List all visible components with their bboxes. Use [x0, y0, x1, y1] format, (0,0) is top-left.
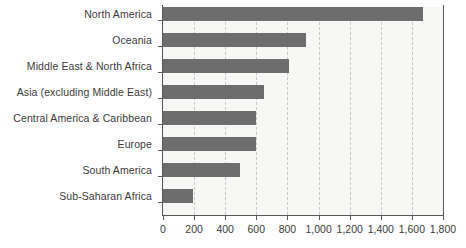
bar-oceania — [163, 33, 306, 47]
x-tick-600 — [256, 216, 257, 220]
plot-area — [163, 7, 443, 215]
category-label-asia-excluding-middle-east: Asia (excluding Middle East) — [17, 85, 152, 99]
y-axis-line — [162, 5, 163, 216]
category-axis: North America Oceania Middle East & Nort… — [0, 7, 158, 215]
x-axis-line — [162, 215, 444, 216]
bar-central-america-caribbean — [163, 111, 256, 125]
gridline-1200 — [350, 7, 351, 215]
y-tick-central-america-caribbean — [158, 124, 162, 125]
x-axis-label-600: 600 — [248, 223, 266, 235]
x-tick-800 — [287, 216, 288, 220]
x-tick-1600 — [412, 216, 413, 220]
category-label-middle-east-north-africa: Middle East & North Africa — [27, 59, 152, 73]
x-tick-1200 — [350, 216, 351, 220]
gridline-1000 — [319, 7, 320, 215]
bar-europe — [163, 137, 256, 151]
x-tick-1000 — [319, 216, 320, 220]
category-label-oceania: Oceania — [112, 33, 152, 47]
plot-right-border — [443, 5, 444, 216]
gridline-1600 — [412, 7, 413, 215]
bar-south-america — [163, 163, 240, 177]
x-axis-label-1800: 1,800 — [430, 223, 456, 235]
x-axis-label-800: 800 — [279, 223, 297, 235]
bar-asia-excluding-middle-east — [163, 85, 264, 99]
category-label-north-america: North America — [84, 7, 152, 21]
x-tick-200 — [194, 216, 195, 220]
y-tick-oceania — [158, 46, 162, 47]
category-label-south-america: South America — [82, 163, 152, 177]
gridline-1400 — [381, 7, 382, 215]
category-label-europe: Europe — [118, 137, 152, 151]
x-axis-label-1400: 1,400 — [368, 223, 394, 235]
y-tick-middle-east-north-africa — [158, 72, 162, 73]
bar-chart: North America Oceania Middle East & Nort… — [0, 0, 466, 248]
bar-middle-east-north-africa — [163, 59, 289, 73]
y-tick-south-america — [158, 176, 162, 177]
y-tick-north-america — [158, 20, 162, 21]
x-tick-1800 — [443, 216, 444, 220]
category-label-sub-saharan-africa: Sub-Saharan Africa — [59, 189, 152, 203]
category-label-central-america-caribbean: Central America & Caribbean — [13, 111, 152, 125]
y-tick-europe — [158, 150, 162, 151]
bar-sub-saharan-africa — [163, 189, 193, 203]
x-axis-label-1600: 1,600 — [399, 223, 425, 235]
x-tick-1400 — [381, 216, 382, 220]
x-axis-label-1000: 1,000 — [305, 223, 331, 235]
x-tick-400 — [225, 216, 226, 220]
x-tick-0 — [163, 216, 164, 220]
x-axis-label-1200: 1,200 — [337, 223, 363, 235]
x-axis-label-0: 0 — [160, 223, 166, 235]
y-tick-sub-saharan-africa — [158, 202, 162, 203]
x-axis-label-200: 200 — [185, 223, 203, 235]
x-axis-label-400: 400 — [216, 223, 234, 235]
y-tick-asia-excluding-middle-east — [158, 98, 162, 99]
bar-north-america — [163, 7, 423, 21]
